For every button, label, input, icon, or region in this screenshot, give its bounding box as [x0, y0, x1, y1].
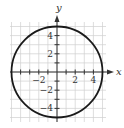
x-tick-labels: −224: [32, 75, 96, 85]
x-tick-label: 2: [72, 75, 78, 85]
x-tick-label: −2: [32, 75, 45, 85]
y-tick-label: 2: [47, 49, 53, 59]
y-axis-label: y: [55, 2, 62, 13]
y-tick-label: 4: [47, 31, 53, 41]
chart-canvas: x y −224 42−2−4: [0, 0, 124, 128]
x-tick-label: 4: [91, 75, 97, 85]
x-axis-label: x: [116, 66, 122, 77]
y-tick-label: −4: [40, 103, 54, 113]
y-axis-arrow-icon: [55, 15, 60, 22]
y-tick-label: −2: [40, 85, 53, 95]
x-axis-arrow-icon: [107, 70, 114, 75]
